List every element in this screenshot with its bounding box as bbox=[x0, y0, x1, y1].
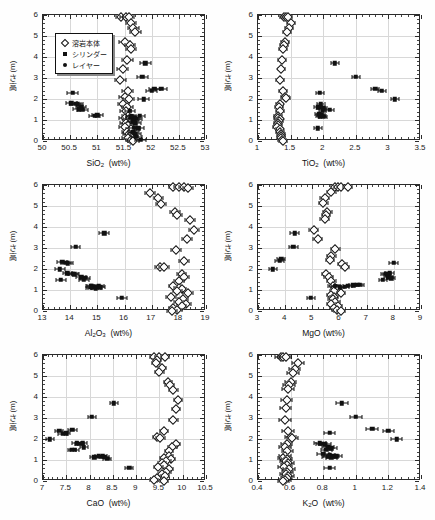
error-bar-cap bbox=[303, 361, 304, 365]
error-bar-cap bbox=[284, 259, 285, 263]
data-point-lava-body bbox=[185, 215, 195, 225]
plot-area-k2o bbox=[257, 354, 420, 480]
x-tick-label: 1.4 bbox=[414, 483, 425, 492]
error-bar-cap bbox=[280, 398, 281, 402]
x-tick-label: 1.5 bbox=[284, 143, 295, 152]
x-tick-label: 10 bbox=[177, 483, 186, 492]
x-tick-major bbox=[421, 15, 422, 19]
y-tick-label: 4 bbox=[20, 52, 38, 61]
error-bar-cap bbox=[124, 466, 125, 470]
data-point-cylinder bbox=[271, 267, 276, 272]
data-point-lava-body bbox=[179, 256, 189, 266]
error-bar-cap bbox=[385, 89, 386, 93]
x-tick-label: 19 bbox=[201, 313, 210, 322]
y-tick-label: 2 bbox=[20, 264, 38, 273]
error-bar-cap bbox=[78, 278, 79, 282]
error-bar-cap bbox=[136, 75, 137, 79]
error-bar-cap bbox=[127, 130, 128, 134]
error-bar-cap bbox=[290, 418, 291, 422]
data-point-lava-body bbox=[173, 210, 183, 220]
error-bar-cap bbox=[359, 75, 360, 79]
error-bar-cap bbox=[145, 114, 146, 118]
data-point-cylinder bbox=[386, 428, 391, 433]
x-tick-label: 1 bbox=[353, 483, 357, 492]
x-tick-label: 50.5 bbox=[61, 143, 77, 152]
x-tick-label: 7 bbox=[363, 313, 367, 322]
y-tick-label: 5 bbox=[20, 31, 38, 40]
y-tick-label: 0 bbox=[235, 306, 253, 315]
y-axis-title-char: 高 bbox=[9, 83, 17, 92]
data-point-cylinder bbox=[128, 108, 133, 113]
plot-area-al2o3 bbox=[42, 184, 205, 310]
error-bar-cap bbox=[293, 387, 294, 391]
data-point-lava-body bbox=[313, 234, 323, 244]
error-bar-cap bbox=[316, 114, 317, 118]
error-bar-cap bbox=[96, 286, 97, 290]
error-bar-cap bbox=[398, 97, 399, 101]
error-bar-cap bbox=[352, 283, 353, 287]
y-tick-label: 3 bbox=[235, 413, 253, 422]
y-axis-title: (m)さ高 bbox=[6, 184, 20, 310]
open-diamond-icon bbox=[61, 38, 69, 46]
error-bar-cap bbox=[132, 58, 133, 62]
error-bar-cap bbox=[104, 285, 105, 289]
data-point-cylinder bbox=[66, 261, 71, 266]
error-bar-cap bbox=[306, 296, 307, 300]
data-point-layer bbox=[129, 114, 134, 119]
error-bar-cap bbox=[298, 371, 299, 375]
data-point-lava-body bbox=[171, 404, 181, 414]
y-axis-title-char: さ bbox=[9, 74, 17, 83]
error-bar-cap bbox=[72, 102, 73, 106]
data-points bbox=[258, 185, 419, 309]
y-axis-title-char: さ bbox=[224, 244, 232, 253]
error-bar-cap bbox=[277, 267, 278, 271]
x-tick-label: 16 bbox=[119, 313, 128, 322]
error-bar-cap bbox=[140, 121, 141, 125]
y-axis-title-char: さ bbox=[224, 74, 232, 83]
data-point-cylinder bbox=[370, 426, 375, 431]
error-bar-cap bbox=[75, 442, 76, 446]
error-bar-cap bbox=[66, 432, 67, 436]
x-tick-label: 14 bbox=[65, 313, 74, 322]
y-axis-title: (m)さ高 bbox=[6, 14, 20, 140]
data-point-cylinder bbox=[277, 258, 282, 263]
y-tick-label: 4 bbox=[235, 392, 253, 401]
y-axis-title: (m)さ高 bbox=[6, 354, 20, 480]
y-tick-major bbox=[415, 311, 419, 312]
x-tick-major bbox=[421, 305, 422, 309]
data-point-cylinder bbox=[141, 97, 146, 102]
y-axis-title-char: (m) bbox=[8, 400, 17, 412]
y-axis-title-char: (m) bbox=[8, 60, 17, 72]
error-bar-cap bbox=[293, 461, 294, 465]
legend-label: シリンダー bbox=[70, 49, 107, 59]
error-bar-cap bbox=[377, 427, 378, 431]
error-bar-cap bbox=[135, 109, 136, 113]
error-bar-cap bbox=[292, 442, 293, 446]
y-tick-major bbox=[415, 141, 419, 142]
data-point-lava-body bbox=[343, 182, 353, 192]
y-tick-label: 0 bbox=[20, 306, 38, 315]
data-point-cylinder bbox=[327, 107, 332, 112]
error-bar-cap bbox=[90, 455, 91, 459]
error-bar-cap bbox=[139, 126, 140, 130]
figure-root: (m)さ高溶岩本体シリンダーレイヤー5050.55151.55252.55301… bbox=[0, 0, 435, 520]
error-bar-cap bbox=[166, 87, 167, 91]
error-bar-cap bbox=[55, 429, 56, 433]
y-tick-major bbox=[258, 311, 262, 312]
error-bar-cap bbox=[87, 415, 88, 419]
error-bar-cap bbox=[297, 245, 298, 249]
error-bar-cap bbox=[327, 115, 328, 119]
error-bar-cap bbox=[317, 114, 318, 118]
error-bar-cap bbox=[63, 261, 64, 265]
x-tick-label: 52.5 bbox=[170, 143, 186, 152]
error-bar-cap bbox=[394, 429, 395, 433]
error-bar-cap bbox=[70, 245, 71, 249]
x-tick-label: 8.5 bbox=[106, 483, 117, 492]
x-tick-label: 9 bbox=[418, 313, 422, 322]
error-bar-cap bbox=[382, 429, 383, 433]
error-bar-cap bbox=[294, 467, 295, 471]
y-tick-major bbox=[200, 481, 204, 482]
data-point-cylinder bbox=[358, 283, 363, 288]
data-point-cylinder bbox=[316, 126, 321, 131]
error-bar-cap bbox=[326, 109, 327, 113]
